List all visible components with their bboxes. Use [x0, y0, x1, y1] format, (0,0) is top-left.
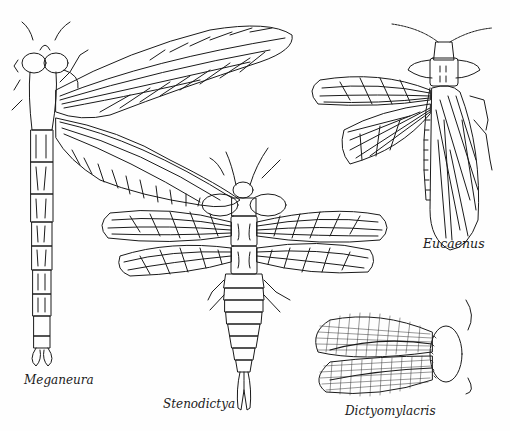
- caption-stenodictya: Stenodictya: [163, 397, 235, 411]
- caption-dictyomylacris: Dictyomylacris: [345, 404, 436, 418]
- caption-eucaenus: Eucaenus: [423, 236, 485, 251]
- illustration-page: Meganeura Stenodictya Eucaenus Dictyomyl…: [0, 0, 510, 431]
- dictyomylacris-drawing: [316, 300, 472, 396]
- caption-meganeura: Meganeura: [24, 373, 94, 387]
- fossil-insects-illustration: [0, 0, 510, 431]
- meganeura-drawing: [12, 22, 292, 366]
